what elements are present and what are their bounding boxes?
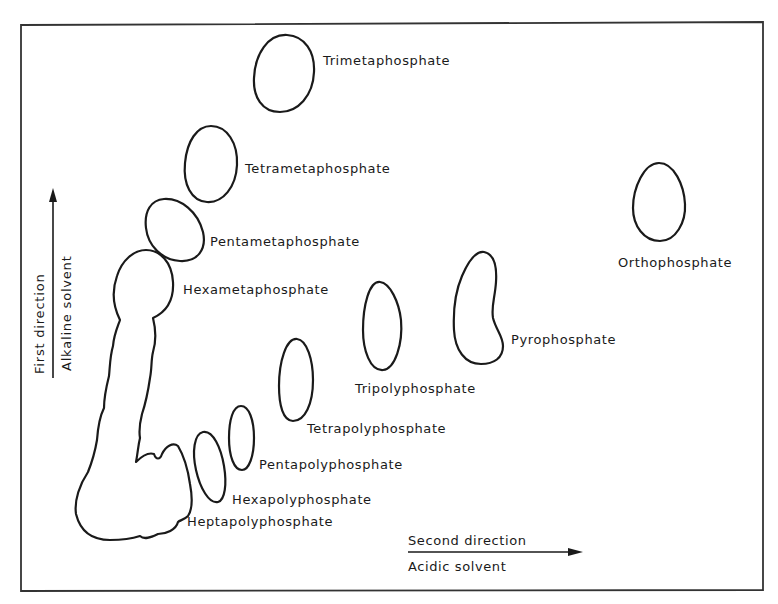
spot-pyrophosphate bbox=[454, 252, 503, 364]
spot-orthophosphate bbox=[633, 163, 685, 241]
label-tripolyphosphate: Tripolyphosphate bbox=[355, 382, 476, 395]
spot-tripolyphosphate bbox=[363, 282, 401, 370]
label-acidic-solvent: Acidic solvent bbox=[408, 560, 506, 573]
label-pyrophosphate: Pyrophosphate bbox=[511, 333, 616, 346]
diagram-frame bbox=[21, 22, 763, 591]
label-orthophosphate: Orthophosphate bbox=[618, 256, 732, 269]
spot-hexametaphosphate-smear bbox=[76, 250, 192, 540]
spot-tetrapolyphosphate bbox=[279, 339, 313, 421]
second-direction-arrow-head bbox=[568, 548, 583, 556]
spot-trimetaphosphate bbox=[254, 35, 314, 112]
label-alkaline-solvent: Alkaline solvent bbox=[60, 255, 73, 371]
spot-pentapolyphosphate bbox=[229, 406, 254, 470]
spot-tetrametaphosphate bbox=[185, 126, 237, 202]
first-direction-arrow-head bbox=[49, 188, 57, 202]
label-hexametaphosphate: Hexametaphosphate bbox=[183, 283, 329, 296]
label-hexapolyphosphate: Hexapolyphosphate bbox=[232, 493, 372, 506]
label-pentametaphosphate: Pentametaphosphate bbox=[210, 235, 360, 248]
label-pentapolyphosphate: Pentapolyphosphate bbox=[259, 458, 403, 471]
label-tetrapolyphosphate: Tetrapolyphosphate bbox=[307, 422, 446, 435]
chromatogram-diagram bbox=[0, 0, 778, 604]
label-second-direction: Second direction bbox=[408, 534, 527, 547]
spot-hexapolyphosphate bbox=[194, 432, 225, 502]
label-trimetaphosphate: Trimetaphosphate bbox=[323, 54, 450, 67]
label-heptapolyphosphate: Heptapolyphosphate bbox=[187, 515, 333, 528]
label-first-direction: First direction bbox=[33, 274, 46, 374]
label-tetrametaphosphate: Tetrametaphosphate bbox=[245, 162, 390, 175]
